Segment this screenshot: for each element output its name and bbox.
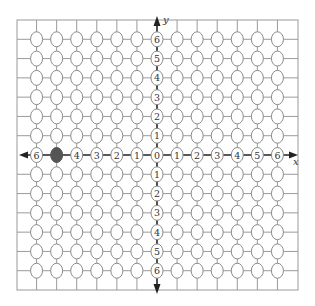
grid-node	[71, 90, 83, 105]
grid-node	[171, 51, 183, 66]
grid-node	[131, 186, 143, 201]
grid-node	[171, 32, 183, 47]
grid-node	[131, 263, 143, 278]
grid-node	[91, 51, 103, 66]
grid-node	[111, 244, 123, 259]
y-tick-label-positive: 5	[154, 53, 160, 64]
origin-label: 0	[154, 150, 160, 161]
grid-node	[91, 263, 103, 278]
grid-node	[71, 263, 83, 278]
grid-node	[31, 186, 43, 201]
grid-node	[131, 244, 143, 259]
grid-node	[91, 225, 103, 240]
y-axis-label: y	[162, 14, 169, 25]
grid-node	[231, 167, 243, 182]
grid-node	[111, 51, 123, 66]
grid-node	[211, 186, 223, 201]
grid-node	[111, 263, 123, 278]
grid-node	[91, 32, 103, 47]
grid-node	[251, 263, 263, 278]
grid-node	[191, 109, 203, 124]
x-axis-left-arrow-icon	[19, 152, 28, 159]
grid-node	[111, 128, 123, 143]
grid-node	[131, 90, 143, 105]
grid-node	[191, 205, 203, 220]
grid-node	[211, 225, 223, 240]
y-tick-label-negative: 2	[154, 188, 160, 199]
grid-node	[271, 263, 283, 278]
y-tick-label-negative: 4	[154, 227, 160, 238]
grid-node	[231, 186, 243, 201]
grid-node	[191, 263, 203, 278]
x-tick-label-positive: 4	[234, 150, 240, 161]
grid-node	[91, 128, 103, 143]
y-tick-label-positive: 6	[154, 34, 160, 45]
grid-node	[31, 263, 43, 278]
grid-node	[51, 205, 63, 220]
x-tick-label-positive: 5	[254, 150, 260, 161]
grid-node	[31, 205, 43, 220]
grid-node	[211, 32, 223, 47]
grid-node	[211, 263, 223, 278]
grid-node	[51, 32, 63, 47]
grid-node	[51, 51, 63, 66]
grid-node	[231, 244, 243, 259]
grid-node	[271, 167, 283, 182]
grid-node	[251, 51, 263, 66]
grid-node	[131, 167, 143, 182]
grid-node	[251, 90, 263, 105]
x-tick-label-negative: 4	[74, 150, 80, 161]
grid-node	[131, 128, 143, 143]
x-tick-label-negative: 3	[94, 150, 100, 161]
grid-node	[51, 167, 63, 182]
y-tick-label-positive: 1	[154, 130, 160, 141]
grid-node	[31, 109, 43, 124]
grid-node	[111, 70, 123, 85]
grid-node	[71, 51, 83, 66]
grid-node	[211, 51, 223, 66]
grid-node	[251, 70, 263, 85]
grid-node	[91, 186, 103, 201]
grid-node	[111, 167, 123, 182]
grid-node	[271, 51, 283, 66]
grid-node	[251, 186, 263, 201]
grid-node	[131, 32, 143, 47]
grid-node	[211, 109, 223, 124]
grid-node	[271, 109, 283, 124]
grid-node	[251, 205, 263, 220]
grid-node	[231, 51, 243, 66]
grid-node	[271, 186, 283, 201]
y-tick-label-negative: 6	[154, 265, 160, 276]
grid-node	[31, 128, 43, 143]
grid-node	[191, 186, 203, 201]
grid-node	[191, 244, 203, 259]
grid-node	[231, 205, 243, 220]
grid-node	[71, 167, 83, 182]
grid-node	[111, 90, 123, 105]
grid-node	[231, 128, 243, 143]
grid-node	[51, 225, 63, 240]
grid-node	[31, 167, 43, 182]
grid-node	[171, 90, 183, 105]
grid-node	[271, 70, 283, 85]
grid-node	[131, 51, 143, 66]
grid-node	[191, 90, 203, 105]
grid-node	[251, 32, 263, 47]
grid-node	[171, 263, 183, 278]
y-tick-label-positive: 2	[154, 111, 160, 122]
grid-node	[131, 225, 143, 240]
grid-node	[71, 205, 83, 220]
grid-node	[51, 90, 63, 105]
grid-node	[191, 225, 203, 240]
grid-node	[111, 32, 123, 47]
x-tick-label-positive: 2	[194, 150, 200, 161]
grid-node	[171, 128, 183, 143]
grid-node	[211, 128, 223, 143]
grid-node	[91, 205, 103, 220]
grid-node	[91, 167, 103, 182]
x-tick-label-negative: 6	[34, 150, 40, 161]
grid-node	[131, 70, 143, 85]
y-axis-down-arrow-icon	[154, 284, 161, 294]
grid-node	[31, 51, 43, 66]
grid-node	[71, 32, 83, 47]
